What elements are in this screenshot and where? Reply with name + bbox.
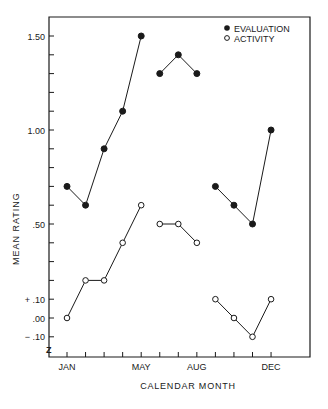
filled-circle-marker-icon <box>157 71 163 77</box>
filled-circle-marker-icon <box>231 202 237 208</box>
filled-circle-marker-icon <box>250 221 256 227</box>
series-line <box>67 36 141 205</box>
open-circle-marker-icon <box>83 278 89 284</box>
x-axis: JANMAYAUGDEC <box>58 352 281 372</box>
legend-marker-evaluation-icon <box>224 25 230 31</box>
filled-circle-marker-icon <box>212 183 218 189</box>
series-group <box>64 33 274 340</box>
open-circle-marker-icon <box>213 296 219 302</box>
filled-circle-marker-icon <box>138 33 144 39</box>
y-axis: 1.501.00.50+ .10.00− .10 <box>25 32 54 343</box>
x-tick-label: DEC <box>262 362 282 372</box>
series-evaluation <box>64 33 274 227</box>
filled-circle-marker-icon <box>64 183 70 189</box>
open-circle-marker-icon <box>138 202 144 208</box>
open-circle-marker-icon <box>231 315 237 321</box>
plot-border <box>49 17 310 357</box>
legend-label-evaluation: EVALUATION <box>234 24 290 34</box>
open-circle-marker-icon <box>268 296 274 302</box>
scale-break-icon: Z <box>46 345 52 355</box>
x-tick-label: MAY <box>132 362 151 372</box>
x-axis-label: CALENDAR MONTH <box>140 381 236 391</box>
filled-circle-marker-icon <box>175 52 181 58</box>
open-circle-marker-icon <box>120 240 126 246</box>
open-circle-marker-icon <box>157 221 163 227</box>
series-line <box>67 205 141 318</box>
y-tick-label: − .10 <box>25 332 45 342</box>
open-circle-marker-icon <box>176 221 182 227</box>
y-tick-label: .00 <box>32 314 45 324</box>
y-tick-label: .50 <box>32 220 45 230</box>
series-line <box>215 130 271 224</box>
open-circle-marker-icon <box>194 240 200 246</box>
filled-circle-marker-icon <box>268 127 274 133</box>
open-circle-marker-icon <box>101 278 107 284</box>
legend-label-activity: ACTIVITY <box>234 34 275 44</box>
x-tick-label: JAN <box>58 362 75 372</box>
open-circle-marker-icon <box>64 315 70 321</box>
y-tick-label: 1.50 <box>27 32 45 42</box>
y-axis-label: MEAN RATING <box>11 192 21 265</box>
filled-circle-marker-icon <box>120 108 126 114</box>
plot-frame <box>49 17 310 357</box>
series-line <box>215 299 271 337</box>
filled-circle-marker-icon <box>101 146 107 152</box>
filled-circle-marker-icon <box>83 202 89 208</box>
series-activity <box>64 202 274 339</box>
open-circle-marker-icon <box>250 334 256 340</box>
line-chart: 1.501.00.50+ .10.00− .10 JANMAYAUGDEC EV… <box>0 0 328 409</box>
y-tick-label: 1.00 <box>27 126 45 136</box>
x-tick-label: AUG <box>187 362 207 372</box>
filled-circle-marker-icon <box>194 71 200 77</box>
legend: EVALUATION ACTIVITY <box>224 24 289 44</box>
legend-marker-activity-icon <box>225 36 230 41</box>
y-tick-label: + .10 <box>25 295 45 305</box>
